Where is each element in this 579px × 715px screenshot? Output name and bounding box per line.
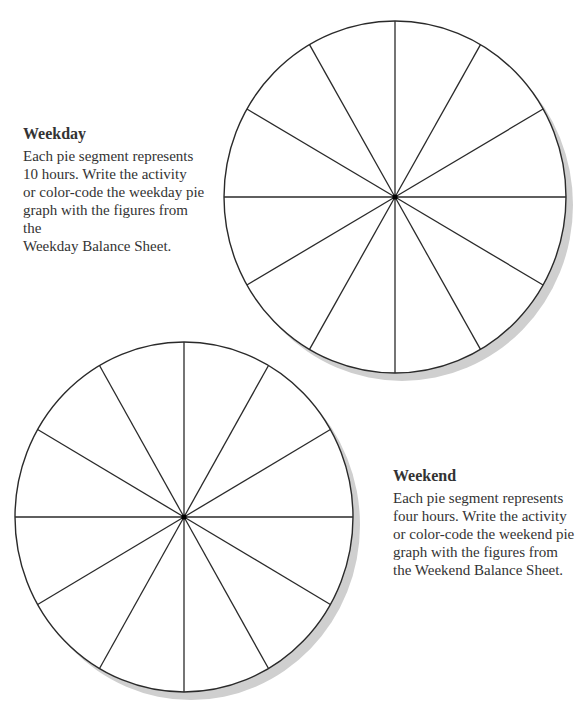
weekend-instructions: Weekend Each pie segment represents four… bbox=[393, 467, 578, 579]
weekend-line: or color-code the weekend pie bbox=[393, 526, 574, 542]
weekend-line: graph with the figures from bbox=[393, 544, 558, 560]
weekday-instructions: Weekday Each pie segment represents 10 h… bbox=[23, 125, 208, 255]
weekday-line: or color-code the weekday pie bbox=[23, 184, 204, 200]
pie-center-dot bbox=[392, 194, 397, 199]
weekend-line: Each pie segment represents bbox=[393, 490, 563, 506]
weekday-line: Weekday Balance Sheet. bbox=[23, 238, 171, 254]
weekend-pie-chart[interactable] bbox=[15, 342, 360, 700]
pie-center-dot bbox=[181, 514, 186, 519]
weekend-heading: Weekend bbox=[393, 467, 578, 485]
weekday-heading: Weekday bbox=[23, 125, 208, 143]
weekend-body: Each pie segment represents four hours. … bbox=[393, 489, 578, 579]
weekday-body: Each pie segment represents 10 hours. Wr… bbox=[23, 147, 208, 255]
pie-charts-canvas bbox=[0, 0, 579, 715]
weekday-line: graph with the figures from the bbox=[23, 202, 188, 236]
weekend-line: the Weekend Balance Sheet. bbox=[393, 562, 563, 578]
weekday-line: 10 hours. Write the activity bbox=[23, 166, 187, 182]
weekend-line: four hours. Write the activity bbox=[393, 508, 567, 524]
weekday-pie-chart[interactable] bbox=[224, 21, 573, 381]
weekday-line: Each pie segment represents bbox=[23, 148, 193, 164]
